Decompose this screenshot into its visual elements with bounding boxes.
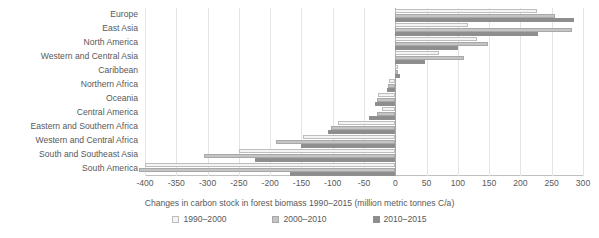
bar-group xyxy=(145,50,583,64)
x-tick-label: -200 xyxy=(262,178,279,188)
legend-item: 1990–2000 xyxy=(172,214,226,224)
legend-item: 2000–2010 xyxy=(272,214,326,224)
category-label: Northern Africa xyxy=(81,80,138,89)
x-tick-label: -250 xyxy=(230,178,247,188)
category-label: South and Southeast Asia xyxy=(39,150,138,159)
x-tick-label: 0 xyxy=(393,178,398,188)
x-tick-label: 300 xyxy=(576,178,590,188)
bar-chart: EuropeEast AsiaNorth AmericaWestern and … xyxy=(0,0,599,238)
x-tick-label: 250 xyxy=(545,178,559,188)
category-label: East Asia xyxy=(102,24,138,33)
chart-legend: 1990–2000 2000–2010 2010–2015 xyxy=(0,214,599,224)
plot-area xyxy=(145,8,583,176)
bar-group xyxy=(145,148,583,162)
x-tick-label: -350 xyxy=(168,178,185,188)
gridline xyxy=(583,8,584,176)
bar-group xyxy=(145,92,583,106)
category-label: South America xyxy=(82,164,138,173)
bar-group xyxy=(145,134,583,148)
x-tick-label: -150 xyxy=(293,178,310,188)
category-label: Western and Central Africa xyxy=(35,136,138,145)
x-tick-label: -400 xyxy=(136,178,153,188)
legend-label: 1990–2000 xyxy=(183,214,226,224)
bar xyxy=(290,172,395,176)
category-label: Oceania xyxy=(106,94,138,103)
x-axis-title: Changes in carbon stock in forest biomas… xyxy=(0,198,599,208)
legend-label: 2010–2015 xyxy=(384,214,427,224)
category-label: Central America xyxy=(77,108,138,117)
bar-group xyxy=(145,162,583,176)
bar-group xyxy=(145,36,583,50)
category-label: Caribbean xyxy=(98,66,138,75)
category-label: Eastern and Southern Africa xyxy=(31,122,139,131)
legend-swatch-icon xyxy=(373,216,380,223)
x-tick-label: -50 xyxy=(358,178,370,188)
x-tick-label: 100 xyxy=(451,178,465,188)
x-tick-label: -100 xyxy=(324,178,341,188)
legend-swatch-icon xyxy=(172,216,179,223)
bar-group xyxy=(145,120,583,134)
category-label: Europe xyxy=(110,10,138,19)
x-tick-label: -300 xyxy=(199,178,216,188)
bar-group xyxy=(145,78,583,92)
x-tick-labels: -400-350-300-250-200-150-100-50050100150… xyxy=(145,178,583,190)
x-tick-label: 50 xyxy=(422,178,432,188)
x-tick-label: 150 xyxy=(482,178,496,188)
legend-label: 2000–2010 xyxy=(283,214,326,224)
bar-group xyxy=(145,8,583,22)
bar-group xyxy=(145,64,583,78)
category-axis: EuropeEast AsiaNorth AmericaWestern and … xyxy=(0,8,142,176)
bar-group xyxy=(145,106,583,120)
legend-swatch-icon xyxy=(272,216,279,223)
legend-item: 2010–2015 xyxy=(373,214,427,224)
category-label: North America xyxy=(84,38,138,47)
category-label: Western and Central Asia xyxy=(41,52,138,61)
x-tick-label: 200 xyxy=(513,178,527,188)
bar-group xyxy=(145,22,583,36)
